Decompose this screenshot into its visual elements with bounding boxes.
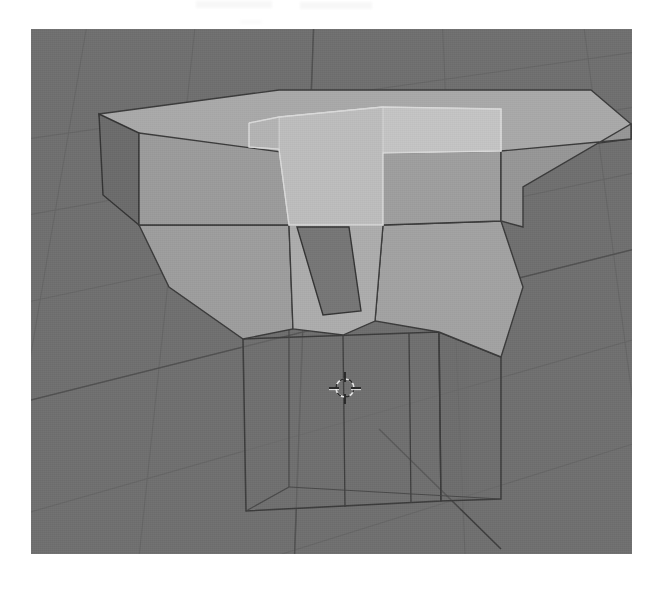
viewport-scene[interactable] — [31, 29, 632, 554]
selected-block-front-face[interactable] — [279, 107, 383, 225]
viewport-3d[interactable] — [31, 29, 632, 554]
page-canvas — [0, 0, 663, 596]
scan-artifact-left — [196, 1, 272, 8]
scan-artifact-small — [240, 20, 262, 24]
top-slab-front-right-face[interactable] — [383, 151, 501, 225]
base-cube-right-face — [439, 332, 501, 501]
base-cube[interactable] — [241, 321, 501, 511]
scan-artifact-right — [300, 2, 372, 9]
